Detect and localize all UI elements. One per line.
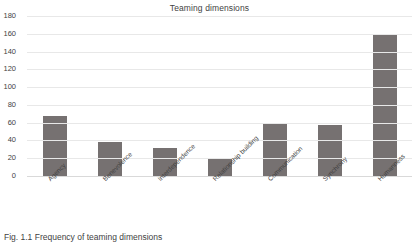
plot-area: 020406080100120140160180 bbox=[27, 16, 412, 176]
y-axis-tick-label: 0 bbox=[0, 172, 16, 180]
bar-slot bbox=[208, 16, 232, 176]
y-axis-tick-label: 140 bbox=[0, 48, 16, 56]
bar-slot bbox=[318, 16, 342, 176]
gridline bbox=[27, 34, 412, 35]
gridline bbox=[27, 52, 412, 53]
y-axis-tick-label: 20 bbox=[0, 154, 16, 162]
bar-slot bbox=[98, 16, 122, 176]
gridline bbox=[27, 105, 412, 106]
gridline bbox=[27, 158, 412, 159]
bar-chart: Teaming dimensions 020406080100120140160… bbox=[0, 0, 419, 222]
figure-caption: Fig. 1.1 Frequency of teaming dimensions bbox=[4, 232, 162, 242]
bar-slot bbox=[373, 16, 397, 176]
y-axis-tick-label: 100 bbox=[0, 83, 16, 91]
bar-slot bbox=[153, 16, 177, 176]
y-axis-tick-label: 80 bbox=[0, 101, 16, 109]
gridline bbox=[27, 87, 412, 88]
x-axis-labels: AgencyBenevolenceInterdependenceRelation… bbox=[27, 176, 412, 222]
bar-slot bbox=[263, 16, 287, 176]
chart-title: Teaming dimensions bbox=[0, 3, 419, 13]
y-axis-tick-label: 40 bbox=[0, 136, 16, 144]
gridline bbox=[27, 69, 412, 70]
gridline bbox=[27, 140, 412, 141]
gridline bbox=[27, 123, 412, 124]
bar-slot bbox=[43, 16, 67, 176]
y-axis-tick-label: 120 bbox=[0, 65, 16, 73]
y-axis-tick-label: 180 bbox=[0, 12, 16, 20]
y-axis-tick-label: 160 bbox=[0, 30, 16, 38]
gridline bbox=[27, 16, 412, 17]
y-axis-tick-label: 60 bbox=[0, 119, 16, 127]
bar-series bbox=[27, 16, 412, 176]
